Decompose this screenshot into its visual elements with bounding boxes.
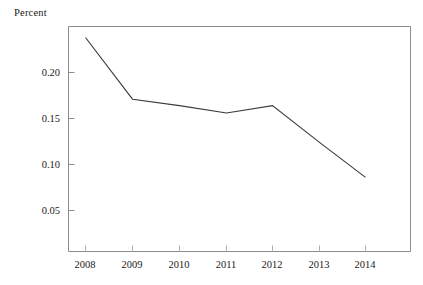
y-tick-label-3: 0.20	[42, 67, 60, 78]
y-tick-label-1: 0.10	[42, 159, 60, 170]
x-tick-label-1: 2009	[122, 259, 143, 270]
data-series-line	[86, 38, 366, 178]
x-tick-label-3: 2011	[216, 259, 237, 270]
x-tick-label-6: 2014	[355, 259, 377, 270]
chart-page: Percent 0.05 0.10 0.15 0.20	[0, 0, 423, 285]
x-tick-label-2: 2010	[169, 259, 190, 270]
x-tick-label-5: 2013	[309, 259, 330, 270]
x-tick-label-4: 2012	[262, 259, 283, 270]
y-tick-label-2: 0.15	[42, 113, 60, 124]
x-axis-tick-labels: 2008 2009 2010 2011 2012 2013 2014	[75, 259, 377, 270]
line-chart: 0.05 0.10 0.15 0.20 2008 2009 2010 2011 …	[0, 0, 423, 285]
x-axis-ticks	[86, 246, 366, 252]
x-tick-label-0: 2008	[75, 259, 96, 270]
plot-frame	[69, 27, 411, 252]
y-axis-ticks	[69, 73, 75, 211]
y-axis-tick-labels: 0.05 0.10 0.15 0.20	[42, 67, 60, 216]
y-tick-label-0: 0.05	[42, 205, 60, 216]
